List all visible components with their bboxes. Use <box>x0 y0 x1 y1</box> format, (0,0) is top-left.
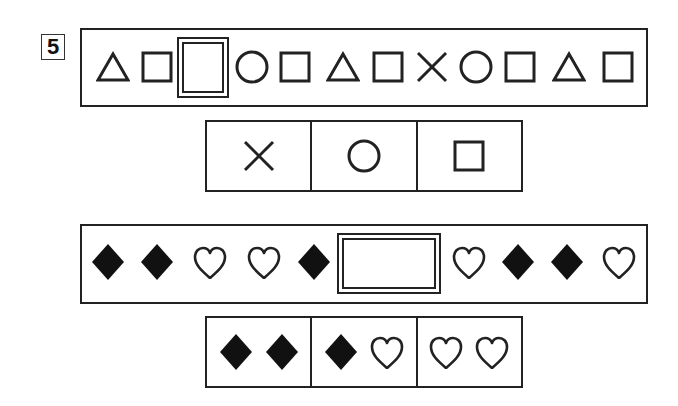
triangle-icon <box>552 50 586 84</box>
choice-option-1[interactable] <box>207 318 310 386</box>
choice-option-1[interactable] <box>207 122 310 190</box>
sequence-item <box>89 242 127 282</box>
square-icon <box>601 50 635 84</box>
heart-icon <box>192 245 228 279</box>
sequence-item <box>600 48 636 86</box>
diamond-icon <box>219 333 253 371</box>
sequence-item <box>325 48 361 86</box>
diamond-icon <box>265 333 299 371</box>
heart-icon <box>475 335 509 369</box>
sequence-item <box>458 48 494 86</box>
sequence-item <box>450 242 488 282</box>
sequence-item <box>95 48 131 86</box>
answer-blank-inner <box>182 42 224 93</box>
puzzle1-choices <box>205 120 523 192</box>
circle-icon <box>459 50 493 84</box>
sequence-item <box>295 242 333 282</box>
sequence-item <box>600 242 638 282</box>
sequence-item <box>370 48 406 86</box>
choice-option-2[interactable] <box>310 122 415 190</box>
sequence-item <box>414 48 450 86</box>
triangle-icon <box>96 50 130 84</box>
square-icon <box>140 50 174 84</box>
diamond-icon <box>296 243 332 281</box>
sequence-item <box>548 242 586 282</box>
puzzle2-sequence-strip <box>80 224 648 304</box>
diamond-icon <box>500 243 536 281</box>
diamond-icon <box>549 243 585 281</box>
answer-blank[interactable] <box>177 37 229 98</box>
sequence-item <box>502 48 538 86</box>
sequence-item <box>191 242 229 282</box>
circle-icon <box>343 139 385 173</box>
heart-icon <box>246 245 282 279</box>
question-number: 5 <box>41 34 65 60</box>
sequence-item <box>139 48 175 86</box>
cross-icon <box>415 50 449 84</box>
puzzle2-choices <box>205 316 523 388</box>
heart-icon <box>429 335 463 369</box>
cross-icon <box>238 139 280 173</box>
sequence-item <box>234 48 270 86</box>
choice-option-2[interactable] <box>310 318 415 386</box>
puzzle1-sequence-strip <box>80 28 648 107</box>
diamond-icon <box>139 243 175 281</box>
answer-blank[interactable] <box>337 233 441 294</box>
sequence-item <box>277 48 313 86</box>
sequence-item <box>551 48 587 86</box>
sequence-item <box>138 242 176 282</box>
choice-option-3[interactable] <box>416 122 521 190</box>
answer-blank-inner <box>342 238 436 289</box>
diamond-icon <box>90 243 126 281</box>
sequence-item <box>499 242 537 282</box>
square-icon <box>371 50 405 84</box>
square-icon <box>503 50 537 84</box>
heart-icon <box>451 245 487 279</box>
sequence-item <box>245 242 283 282</box>
triangle-icon <box>326 50 360 84</box>
choice-option-3[interactable] <box>416 318 521 386</box>
heart-icon <box>370 335 404 369</box>
circle-icon <box>235 50 269 84</box>
square-icon <box>448 139 490 173</box>
diamond-icon <box>324 333 358 371</box>
square-icon <box>278 50 312 84</box>
heart-icon <box>601 245 637 279</box>
